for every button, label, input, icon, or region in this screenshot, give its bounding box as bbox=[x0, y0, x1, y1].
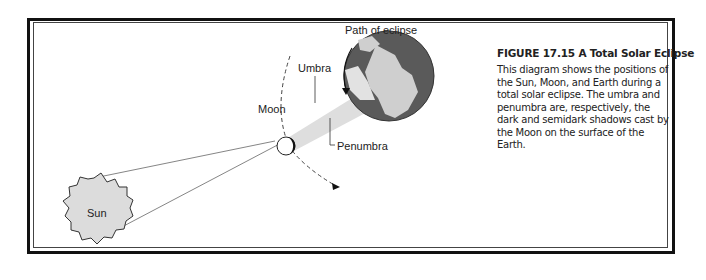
sun-label: Sun bbox=[87, 207, 107, 219]
moon-icon bbox=[277, 137, 295, 155]
figure-title: FIGURE 17.15 A Total Solar Eclipse bbox=[497, 47, 669, 59]
figure-caption: FIGURE 17.15 A Total Solar Eclipse This … bbox=[497, 47, 669, 152]
moon-label: Moon bbox=[258, 103, 286, 115]
orbit-arrow-icon bbox=[332, 183, 340, 190]
path-of-eclipse-label: Path of eclipse bbox=[345, 24, 417, 36]
earth-icon bbox=[344, 31, 434, 121]
penumbra-label: Penumbra bbox=[337, 140, 389, 152]
umbra-label: Umbra bbox=[298, 62, 332, 74]
figure-caption-text: This diagram shows the positions of the … bbox=[497, 64, 669, 152]
